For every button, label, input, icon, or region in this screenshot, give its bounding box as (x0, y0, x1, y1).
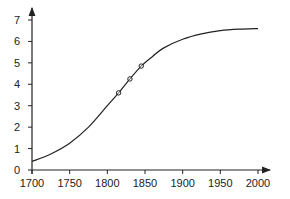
y-tick-label: 3 (14, 100, 20, 112)
y-tick-label: 1 (14, 143, 20, 155)
plot-area (32, 29, 258, 162)
y-tick-label: 6 (14, 35, 20, 47)
x-tick-label: 1700 (20, 177, 44, 189)
x-tick-label: 1900 (170, 177, 194, 189)
logistic-curve (32, 29, 258, 162)
y-tick-label: 5 (14, 57, 20, 69)
logistic-growth-chart: 170017501800185019001950200001234567 (0, 0, 290, 199)
x-tick-label: 2000 (246, 177, 270, 189)
x-tick-label: 1950 (208, 177, 232, 189)
data-point-marker (128, 77, 132, 81)
y-tick-label: 7 (14, 14, 20, 26)
axes: 170017501800185019001950200001234567 (14, 8, 270, 189)
y-tick-label: 0 (14, 164, 20, 176)
y-tick-label: 2 (14, 121, 20, 133)
x-tick-label: 1750 (57, 177, 81, 189)
data-point-marker (139, 64, 143, 68)
y-tick-label: 4 (14, 78, 20, 90)
data-point-marker (116, 91, 120, 95)
x-tick-label: 1800 (95, 177, 119, 189)
x-tick-label: 1850 (133, 177, 157, 189)
